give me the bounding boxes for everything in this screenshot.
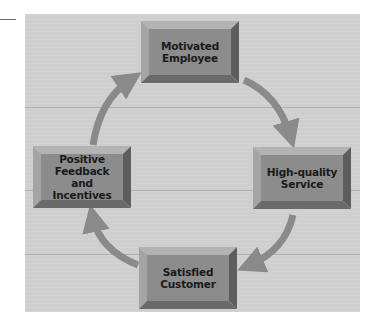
node-label: Motivated Employee: [161, 40, 219, 64]
node-label: Satisfied Customer: [160, 266, 215, 290]
node-face: High-quality Service: [261, 155, 343, 201]
arrow-employee-to-service: [244, 80, 290, 135]
node-label: Positive Feedback and Incentives: [41, 153, 123, 201]
node-satisfied-customer: Satisfied Customer: [139, 247, 237, 309]
arrow-service-to-customer: [250, 215, 293, 265]
node-face: Motivated Employee: [149, 29, 231, 75]
arrow-feedback-to-employee: [93, 80, 130, 145]
node-motivated-employee: Motivated Employee: [141, 21, 239, 83]
node-face: Satisfied Customer: [147, 255, 229, 301]
node-high-quality-service: High-quality Service: [253, 147, 351, 209]
node-label: High-quality Service: [267, 166, 337, 190]
node-positive-feedback: Positive Feedback and Incentives: [33, 146, 131, 208]
arrow-customer-to-feedback: [93, 218, 138, 265]
node-face: Positive Feedback and Incentives: [41, 154, 123, 200]
